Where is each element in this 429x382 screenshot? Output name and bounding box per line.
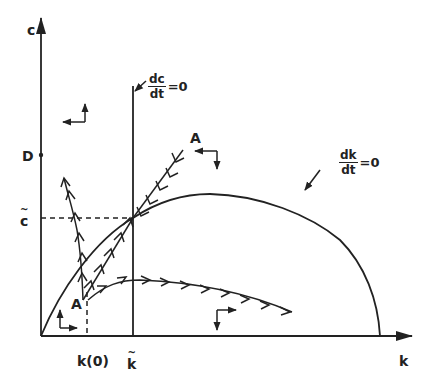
a-upper-label: A — [190, 131, 201, 145]
motion-arrow-upper-left — [63, 104, 85, 122]
d-label: D — [22, 149, 34, 163]
dk-dt-zero-locus — [41, 194, 380, 336]
saddle-path-lower — [83, 218, 133, 300]
a-lower-label: A — [71, 297, 82, 311]
k0-label: k(0) — [77, 354, 109, 368]
divergent-up-chevrons — [61, 178, 87, 282]
dc-dt-pointer — [135, 81, 146, 91]
dk-dt-pointer — [305, 170, 320, 190]
phase-diagram — [0, 0, 429, 382]
motion-arrow-lower-right — [217, 310, 236, 330]
point-d — [39, 153, 43, 157]
motion-arrow-upper-right — [195, 151, 217, 169]
dc-dt-zero-label: dcdt =0 — [148, 73, 188, 100]
dk-dt-zero-label: dkdt =0 — [339, 149, 380, 176]
k-tilde-label: ~k — [127, 357, 136, 371]
k-axis-label: k — [399, 354, 408, 368]
saddle-upper-chevrons — [137, 153, 184, 216]
c-tilde-label: ~c — [20, 214, 28, 228]
divergent-right-chevrons — [97, 276, 290, 315]
motion-arrow-lower-left — [60, 310, 77, 328]
c-axis-label: c — [27, 23, 35, 37]
